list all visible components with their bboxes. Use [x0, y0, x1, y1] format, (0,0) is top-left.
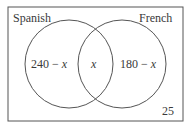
spanish-only-value: 240 − x	[31, 57, 68, 71]
spanish-label: Spanish	[13, 11, 51, 25]
french-only-value: 180 − x	[120, 57, 157, 71]
intersection-value: x	[90, 57, 97, 71]
outside-value: 25	[162, 104, 174, 118]
french-label: French	[139, 11, 172, 25]
venn-diagram: Spanish French 240 − x x 180 − x 25	[0, 0, 191, 126]
